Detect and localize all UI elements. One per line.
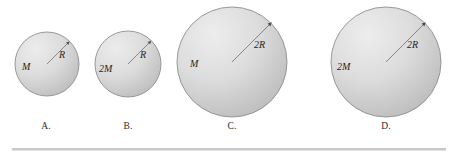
sphere-b-mass-label: 2M bbox=[99, 63, 113, 74]
sphere-c-mass-label: M bbox=[189, 58, 199, 69]
sphere-c: M 2R bbox=[170, 0, 295, 130]
sphere-d: 2M 2R bbox=[325, 0, 450, 130]
sphere-a-mass-label: M bbox=[21, 61, 31, 72]
option-c-group: M 2R bbox=[170, 0, 295, 130]
sphere-a-radius-label: R bbox=[58, 49, 65, 60]
option-label-d: D. bbox=[381, 121, 391, 131]
sphere-b-radius-label: R bbox=[139, 49, 146, 60]
sphere-d-radius-label: 2R bbox=[407, 39, 418, 50]
option-label-b: B. bbox=[123, 121, 132, 131]
sphere-d-mass-label: 2M bbox=[337, 61, 351, 72]
sphere-c-radius-label: 2R bbox=[254, 39, 265, 50]
option-label-a: A. bbox=[41, 121, 51, 131]
bottom-divider-rule-shadow bbox=[12, 150, 446, 151]
sphere-comparison-figure: M R 2M R bbox=[0, 0, 455, 162]
option-d-group: 2M 2R bbox=[325, 0, 450, 130]
option-label-c: C. bbox=[227, 121, 236, 131]
